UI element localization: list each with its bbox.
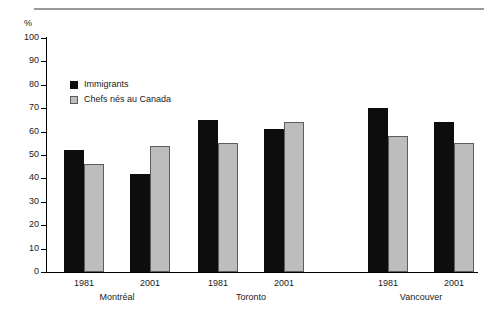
bar-canadian-born [218, 143, 238, 272]
bar-canadian-born [388, 136, 408, 272]
bar-immigrants [434, 122, 454, 272]
y-axis-unit-label: % [24, 18, 32, 28]
x-tick-label-year: 1981 [195, 278, 241, 289]
chart-legend: ImmigrantsChefs nés au Canada [70, 78, 171, 108]
legend-item: Chefs nés au Canada [70, 93, 171, 106]
y-tick-mark [41, 155, 46, 156]
bar-canadian-born [150, 146, 170, 272]
legend-item: Immigrants [70, 78, 171, 91]
y-tick-label: 20 [29, 219, 39, 230]
x-axis-line [46, 272, 478, 273]
x-group-label: Toronto [191, 292, 311, 303]
bar-immigrants [368, 108, 388, 272]
y-tick-label: 10 [29, 243, 39, 254]
y-tick-label: 100 [24, 32, 39, 43]
y-tick-label: 70 [29, 102, 39, 113]
x-group-label: Vancouver [361, 292, 481, 303]
x-tick-label-year: 2001 [127, 278, 173, 289]
y-tick-mark [41, 108, 46, 109]
x-tick-label-year: 2001 [431, 278, 477, 289]
y-tick-mark [41, 38, 46, 39]
y-tick-mark [41, 85, 46, 86]
y-tick-label: 80 [29, 79, 39, 90]
legend-swatch-immigrants [70, 81, 78, 89]
x-tick-label-year: 2001 [261, 278, 307, 289]
bar-immigrants [198, 120, 218, 272]
y-tick-mark [41, 272, 46, 273]
legend-swatch-canadian [70, 96, 78, 104]
y-tick-label: 50 [29, 149, 39, 160]
y-tick-label: 60 [29, 126, 39, 137]
bar-immigrants [130, 174, 150, 272]
plot-area: 1009080706050403020100 [46, 38, 478, 272]
y-tick-label: 0 [34, 266, 39, 277]
y-tick-mark [41, 225, 46, 226]
bar-canadian-born [454, 143, 474, 272]
bar-immigrants [264, 129, 284, 272]
y-tick-mark [41, 132, 46, 133]
x-group-label: Montréal [57, 292, 177, 303]
legend-label: Chefs nés au Canada [84, 94, 171, 105]
y-tick-mark [41, 178, 46, 179]
bar-canadian-born [284, 122, 304, 272]
bar-canadian-born [84, 164, 104, 272]
top-divider-rule [34, 8, 484, 10]
chart-figure: % 1009080706050403020100 19812001Montréa… [0, 0, 490, 327]
y-tick-label: 30 [29, 196, 39, 207]
y-tick-mark [41, 61, 46, 62]
y-tick-label: 90 [29, 55, 39, 66]
bar-immigrants [64, 150, 84, 272]
y-tick-label: 40 [29, 172, 39, 183]
x-tick-label-year: 1981 [61, 278, 107, 289]
x-tick-label-year: 1981 [365, 278, 411, 289]
y-tick-mark [41, 249, 46, 250]
legend-label: Immigrants [84, 79, 129, 90]
y-tick-mark [41, 202, 46, 203]
